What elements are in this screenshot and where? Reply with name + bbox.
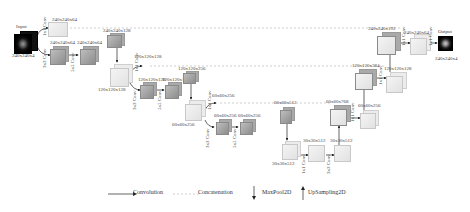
feature-map-d2a — [386, 72, 406, 92]
feature-map-e3c — [240, 119, 255, 134]
feature-map-s1 — [107, 33, 125, 47]
feature-map-e3b — [216, 119, 231, 134]
conv-label: 5x5 Conv — [157, 90, 162, 110]
output-image — [438, 36, 452, 50]
conv-label: 5x5 Conv — [70, 52, 75, 72]
output-shape: 240x240x4 — [435, 56, 458, 62]
s3-shape: 60x60x512 — [274, 100, 297, 106]
feature-map-d3a — [360, 110, 378, 128]
e2a-shape: 120x120x128 — [134, 54, 162, 60]
feature-map-e3in — [185, 100, 205, 120]
conv-label: 1x1 Conv — [42, 16, 47, 36]
e4b-shape: 30x30x512 — [330, 138, 353, 144]
conv-label: 1x1 Conv — [301, 154, 306, 174]
unet-diagram: Input 240x240x4 240x240x64 1x1 Conv 3x3 … — [0, 0, 470, 212]
feature-map-e4a — [308, 145, 324, 161]
feature-map-e1c — [80, 46, 98, 64]
e4a-shape: 30x30x512 — [303, 138, 326, 144]
feature-map-e1b — [50, 46, 68, 64]
legend-maxpool: MaxPool2D — [262, 189, 291, 195]
conv-label: 1x1 Conv — [350, 102, 355, 122]
conv-label: 1x1 Conv — [428, 26, 433, 46]
e2in-shape: 120x120x128 — [98, 87, 126, 93]
feature-map-s2 — [183, 71, 198, 83]
input-title: Input — [16, 24, 27, 30]
concatenation-line-icon — [173, 191, 199, 197]
conv-label: 3x3 Conv — [132, 90, 137, 110]
legend-convolution: Convolution — [133, 189, 163, 195]
conv-label: 3x3 Conv — [205, 128, 210, 148]
feature-map-d1a — [410, 34, 430, 54]
feature-map-s3 — [280, 107, 294, 123]
feature-map-d3cat — [330, 105, 350, 125]
feature-map-e2b — [140, 82, 156, 98]
feature-map-e2in — [110, 64, 132, 86]
upsampling-arrow-icon — [300, 186, 306, 200]
d3a-shape: 60x60x256 — [358, 103, 381, 109]
feature-map-e2c — [165, 82, 181, 98]
feature-map-e4b — [334, 145, 350, 161]
input-image — [14, 31, 38, 53]
e3in-shape: 60x60x256 — [172, 122, 195, 128]
e4in-shape: 30x30x512 — [272, 161, 295, 167]
legend-upsampling: UpSampling2D — [308, 189, 346, 195]
legend-concatenation: Concatenation — [198, 189, 233, 195]
conv-label: 3x3 Conv — [42, 48, 47, 68]
conv-label: 5x5 Conv — [232, 128, 237, 148]
feature-map-d1cat — [377, 32, 401, 54]
feature-map-d2cat — [355, 69, 377, 89]
conv-label: 3x3 Conv — [326, 154, 331, 174]
conv-label: 1x1 Conv — [378, 65, 383, 85]
maxpool-arrow-icon — [251, 186, 257, 200]
e3a-shape: 60x60x256 — [212, 93, 235, 99]
input-shape: 240x240x4 — [12, 53, 35, 59]
feature-map-e4in — [282, 141, 300, 159]
feature-map-e1a — [48, 22, 68, 36]
output-title: Output — [438, 29, 452, 35]
